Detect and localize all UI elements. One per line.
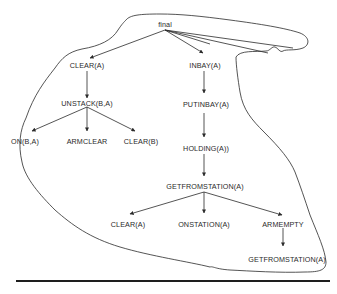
edge-gfs-clear bbox=[130, 192, 204, 214]
node-clear-b: CLEAR(B) bbox=[124, 138, 158, 145]
edge-final-inbay bbox=[165, 30, 203, 53]
node-clear-a-2: CLEAR(A) bbox=[111, 221, 145, 228]
node-onstation-a: ONSTATION(A) bbox=[178, 221, 230, 228]
node-unstack-b-a: UNSTACK(B,A) bbox=[61, 100, 112, 107]
node-on-b-a: ON(B,A) bbox=[11, 138, 39, 145]
node-final: final bbox=[158, 21, 172, 28]
figure-rule bbox=[16, 280, 330, 282]
edge-unstack-clearb bbox=[87, 107, 135, 131]
node-getfromstation-a-2: GETFROMSTATION(A) bbox=[248, 256, 325, 263]
edge-gfs-armempty bbox=[204, 192, 282, 215]
node-inbay-a: INBAY(A) bbox=[189, 62, 220, 69]
edge-unstack-on bbox=[32, 107, 87, 131]
node-clear-a: CLEAR(A) bbox=[70, 62, 104, 69]
edge-final-branch-2 bbox=[165, 30, 268, 53]
node-putinbay-a: PUTINBAY(A) bbox=[183, 101, 229, 108]
node-holding-a: HOLDING(A)) bbox=[183, 145, 229, 152]
node-armempty: ARMEMPTY bbox=[262, 221, 304, 228]
edge-final-branch-1 bbox=[165, 30, 210, 44]
node-armclear: ARMCLEAR bbox=[67, 138, 108, 145]
diagram-canvas bbox=[0, 0, 337, 294]
edge-final-branch-3 bbox=[165, 30, 293, 48]
node-getfromstation-a: GETFROMSTATION(A) bbox=[166, 183, 243, 190]
